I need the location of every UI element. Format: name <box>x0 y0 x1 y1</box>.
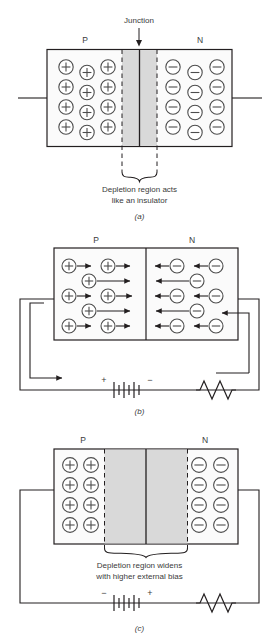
carrier-positive <box>84 518 99 533</box>
carrier-positive <box>80 65 94 79</box>
n-region-label-c: N <box>202 435 208 445</box>
carrier-negative <box>166 100 180 114</box>
carrier-negative <box>210 120 224 134</box>
carrier-positive <box>84 478 99 493</box>
figure-container: Junction P N <box>0 0 279 642</box>
carrier-positive <box>101 60 115 74</box>
carrier-positive <box>80 125 94 139</box>
carrier-negative <box>214 518 229 533</box>
caption-line1-c: Depletion region widens <box>97 561 182 570</box>
carrier-positive <box>84 498 99 513</box>
carrier-negative <box>210 80 224 94</box>
junction-label: Junction <box>124 16 154 25</box>
carrier-negative <box>192 478 207 493</box>
carrier-negative <box>188 85 202 99</box>
battery-positive-terminal-c: + <box>147 588 152 598</box>
carrier-positive <box>63 478 78 493</box>
carrier-negative <box>192 518 207 533</box>
carrier-negative <box>214 478 229 493</box>
carrier-negative <box>210 100 224 114</box>
caption-line1-a: Depletion region acts <box>102 185 177 194</box>
n-region-label-b: N <box>189 235 195 245</box>
carrier-positive <box>59 100 73 114</box>
carrier-negative <box>214 458 229 473</box>
battery-negative-terminal-b: − <box>147 375 152 385</box>
carrier-positive <box>101 120 115 134</box>
n-carriers-a <box>166 60 224 140</box>
battery-negative-terminal-c: − <box>101 588 106 598</box>
p-region-label-b: P <box>93 235 99 245</box>
panel-label-b: (b) <box>135 407 145 416</box>
carrier-negative <box>166 60 180 74</box>
p-region-label-a: P <box>82 35 88 45</box>
carrier-negative <box>166 80 180 94</box>
carrier-negative <box>210 60 224 74</box>
carrier-negative <box>188 105 202 119</box>
carrier-positive <box>59 60 73 74</box>
panel-c: P N <box>20 435 259 633</box>
carrier-positive <box>59 120 73 134</box>
carrier-negative <box>188 65 202 79</box>
carrier-positive <box>101 80 115 94</box>
battery-positive-terminal-b: + <box>101 375 106 385</box>
carrier-positive <box>63 498 78 513</box>
carrier-negative <box>192 458 207 473</box>
carrier-positive <box>59 80 73 94</box>
carrier-negative <box>214 498 229 513</box>
pn-junction-figure: Junction P N <box>0 0 279 642</box>
carrier-positive <box>101 100 115 114</box>
carrier-positive <box>63 518 78 533</box>
p-region-label-c: P <box>80 435 86 445</box>
p-carriers-a <box>59 60 115 140</box>
carrier-negative <box>166 120 180 134</box>
carrier-negative <box>192 498 207 513</box>
panel-label-a: (a) <box>135 212 145 221</box>
carrier-positive <box>63 458 78 473</box>
carrier-negative <box>188 125 202 139</box>
caption-line2-a: like an insulator <box>112 196 168 205</box>
n-region-label-a: N <box>197 35 203 45</box>
carrier-positive <box>80 105 94 119</box>
carrier-positive <box>84 458 99 473</box>
carrier-positive <box>80 85 94 99</box>
caption-line2-c: with higher external bias <box>95 572 182 581</box>
panel-label-c: (c) <box>135 624 145 633</box>
